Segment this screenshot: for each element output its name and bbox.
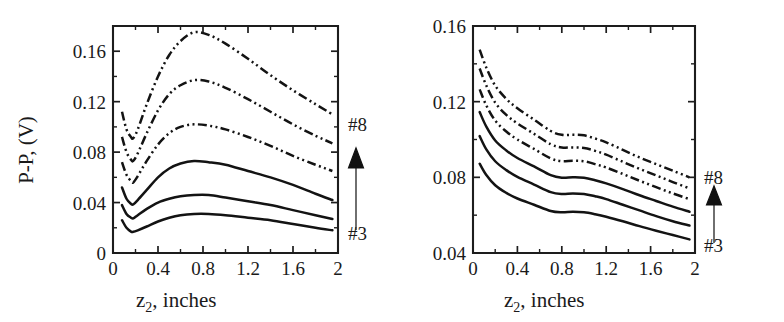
series-top-label-left: #8 [348,114,367,135]
y-tick-label: 0.04 [433,243,467,264]
y-tick-label: 0.16 [433,16,466,37]
plot-frame [113,26,338,253]
series-curve-n7 [122,80,332,161]
x-tick-label: 0.8 [550,258,574,279]
x-tick-label: 1.2 [594,258,618,279]
x-tick-label: 0.4 [146,258,170,279]
y-tick-label: 0.12 [73,92,106,113]
y-tick-label: 0.08 [433,167,466,188]
left-panel-curves [122,32,332,232]
y-tick-label: 0.16 [73,41,106,62]
x-axis-title-rest-right: , inches [520,288,584,312]
x-tick-label: 0 [468,258,478,279]
x-axis-title-right: z2, inches [504,288,584,315]
figure-container: 00.40.81.21.6200.040.080.120.16 #8 #3 z2… [0,0,784,322]
x-tick-label: 2 [333,258,343,279]
x-tick-label: 0 [108,258,118,279]
series-curve-n6 [480,89,690,199]
x-axis-title-sub-right: 2 [513,300,520,315]
left-panel-axes [113,26,338,253]
x-tick-label: 0.4 [506,258,530,279]
left-panel-svg: 00.40.81.21.6200.040.080.120.16 #8 #3 z2… [0,0,392,322]
y-tick-label: 0.04 [73,193,107,214]
x-axis-title-rest-left: , inches [152,288,216,312]
series-curve-n3 [122,214,332,232]
x-axis-title-left: z2, inches [136,288,216,315]
up-arrow-icon [349,148,364,230]
series-curve-n6 [122,124,332,182]
x-axis-title-sub-left: 2 [145,300,152,315]
series-curve-n8 [480,50,690,178]
y-tick-label: 0.08 [73,142,106,163]
x-tick-label: 1.2 [236,258,260,279]
series-curve-n8 [122,32,332,139]
series-top-label-right: #8 [704,167,723,188]
right-panel: 00.40.81.21.620.040.080.120.16 #8 #3 z2,… [392,0,784,322]
y-tick-label: 0 [97,243,107,264]
y-axis-title-left: P-P, (V) [14,116,38,184]
y-tick-label: 0.12 [433,92,466,113]
series-curve-n7 [480,69,690,189]
x-tick-label: 1.6 [639,258,663,279]
x-tick-label: 1.6 [281,258,305,279]
x-axis-title-main-left: z [136,288,145,312]
left-panel: 00.40.81.21.6200.040.080.120.16 #8 #3 z2… [0,0,392,322]
x-axis-title-main-right: z [504,288,513,312]
right-panel-svg: 00.40.81.21.620.040.080.120.16 #8 #3 z2,… [392,0,784,322]
series-bottom-label-left: #3 [348,223,367,244]
right-panel-curves [480,50,690,240]
x-tick-label: 2 [690,258,700,279]
x-tick-label: 0.8 [191,258,215,279]
